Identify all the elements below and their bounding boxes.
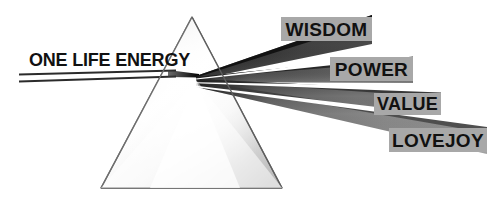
input-beam-rays <box>19 71 176 82</box>
output-label-wisdom: WISDOM <box>281 17 372 41</box>
input-beam-ray-top <box>19 71 176 75</box>
prism-diagram-canvas: ONE LIFE ENERGY WISDOM POWER VALUE LOVEJ… <box>0 0 499 205</box>
output-label-value: VALUE <box>374 93 441 115</box>
input-beam-label: ONE LIFE ENERGY <box>29 51 190 69</box>
input-beam-ray-bottom <box>19 77 176 82</box>
output-label-lovejoy: LOVEJOY <box>389 128 487 152</box>
output-label-power: POWER <box>330 57 413 81</box>
